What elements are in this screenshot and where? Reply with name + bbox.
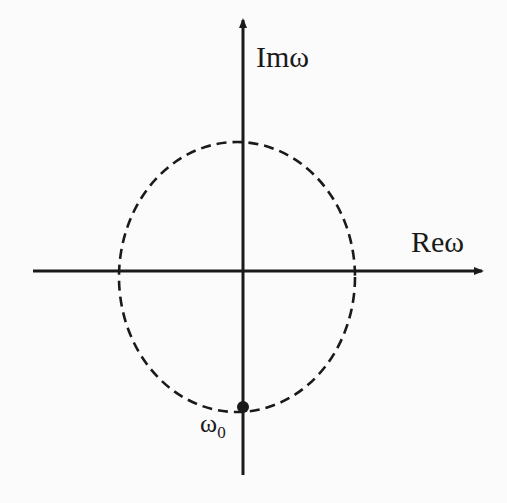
real-axis-label: Reω	[411, 225, 464, 258]
omega0-label-subscript: 0	[217, 423, 226, 442]
dashed-contour	[119, 142, 355, 412]
omega0-label-base: ω	[200, 409, 217, 438]
omega0-point	[237, 401, 249, 413]
imaginary-axis-label: Imω	[256, 40, 309, 73]
complex-plane-diagram: Imω Reω ω0	[0, 0, 507, 503]
omega0-label: ω0	[200, 409, 226, 442]
diagram-svg: Imω Reω ω0	[0, 0, 507, 503]
